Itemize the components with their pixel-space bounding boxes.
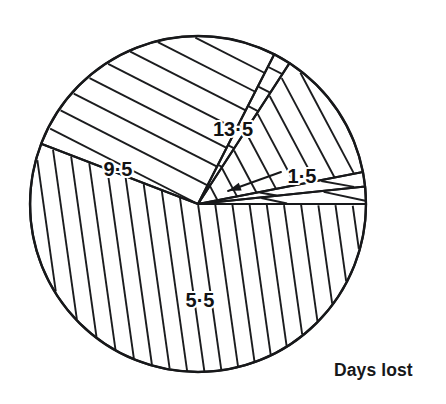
hatch-line [324,192,366,201]
hatch-line [259,87,270,93]
hatch-line [61,110,208,185]
pie-chart-canvas: 5·59·513·51·5 [0,0,446,404]
hatch-line [321,181,354,187]
slice-label-slice-1-5: 1·5 [288,165,317,187]
hatch-line [222,168,237,197]
pie-chart-figure: 5·59·513·51·5 Days lost [0,0,446,404]
hatch-line [249,106,258,111]
hatch-line [282,78,335,177]
chart-caption: Days lost [334,360,413,381]
hatch-line [261,198,287,203]
hatch-line [215,205,238,367]
hatch-line [89,163,115,349]
wedge-slice-sliver-b[interactable] [198,172,365,204]
hatch-line [284,205,302,334]
hatch-line [353,206,359,249]
hatch-line [335,205,346,281]
hatch-line [74,94,217,167]
hatch-line [269,67,283,74]
hatch-line [301,205,317,321]
slice-label-slice-13-5: 13·5 [213,118,253,140]
slice-label-slice-5-5: 5·5 [186,289,215,311]
hatch-line [232,204,254,361]
hatch-line [126,177,152,364]
hatch-line [107,171,133,358]
slice-label-slice-9-5: 9·5 [104,158,133,180]
hatch-line [130,52,245,111]
hatch-line [318,205,332,303]
hatch-line [158,42,255,92]
hatch-line [210,186,218,200]
hatch-line [37,160,55,291]
hatch-line [250,205,271,354]
hatch-line [195,38,264,73]
hatch-line [198,205,221,369]
hatch-line [267,205,287,346]
hatch-line [144,184,170,368]
hatch-group-slice-1-5 [261,192,365,204]
